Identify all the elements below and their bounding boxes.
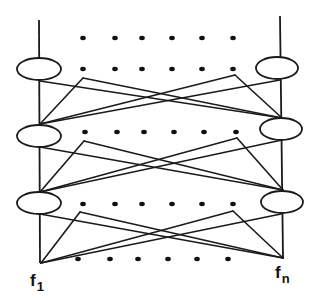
dot-1-4 <box>169 36 175 40</box>
dot-5-1 <box>75 257 81 261</box>
dot-3-1 <box>82 130 88 134</box>
label-f1: f1 <box>30 272 43 289</box>
label-f1-subscript: 1 <box>37 279 44 294</box>
left-node-3 <box>17 192 61 214</box>
dot-4-4 <box>169 202 175 206</box>
dot-5-3 <box>135 257 141 261</box>
connection-line-3-3 <box>41 212 80 263</box>
dot-1-5 <box>199 36 205 40</box>
dot-1-6 <box>230 36 236 40</box>
dot-2-5 <box>199 67 205 71</box>
dot-1-1 <box>80 36 86 40</box>
dot-4-2 <box>112 202 118 206</box>
dot-2-4 <box>169 67 175 71</box>
dot-3-5 <box>201 130 207 134</box>
dot-1-3 <box>139 36 145 40</box>
dot-3-3 <box>141 130 147 134</box>
label-fn-subscript: n <box>282 271 290 286</box>
dot-2-2 <box>112 67 118 71</box>
dot-4-1 <box>80 202 86 206</box>
right-node-3 <box>261 191 303 213</box>
label-f1-base: f <box>30 271 36 290</box>
dot-3-6 <box>233 130 239 134</box>
connection-line-1-5 <box>40 75 235 124</box>
dot-1-2 <box>112 36 118 40</box>
connection-lines <box>40 75 283 263</box>
dot-5-6 <box>225 257 231 261</box>
connection-line-2-6 <box>237 138 283 190</box>
connection-line-2-5 <box>40 138 237 192</box>
right-node-1 <box>256 57 298 79</box>
dot-5-4 <box>165 257 171 261</box>
dot-5-5 <box>194 257 200 261</box>
right-node-2 <box>260 118 302 140</box>
dot-3-4 <box>171 130 177 134</box>
label-fn-base: f <box>275 263 281 282</box>
left-node-2 <box>17 125 61 147</box>
node-columns <box>17 16 303 263</box>
dot-5-2 <box>107 257 113 261</box>
label-fn: fn <box>275 264 289 281</box>
dot-4-5 <box>199 202 205 206</box>
dot-2-6 <box>230 67 236 71</box>
network-diagram <box>0 0 320 299</box>
connection-line-2-2 <box>84 141 283 190</box>
dot-2-3 <box>139 67 145 71</box>
left-node-1 <box>17 58 61 80</box>
dot-4-3 <box>139 202 145 206</box>
dot-3-2 <box>114 130 120 134</box>
dot-2-1 <box>80 67 86 71</box>
dot-4-6 <box>230 202 236 206</box>
